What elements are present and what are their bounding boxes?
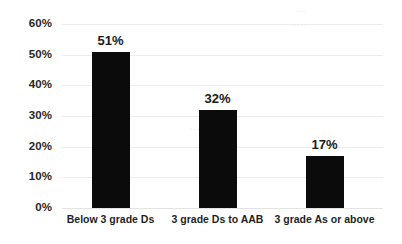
plot-area (62, 24, 383, 208)
gridline (62, 24, 383, 25)
y-axis-tick-label: 20% (6, 141, 52, 153)
watermark-artifact: ... (296, 4, 307, 14)
gridline (62, 208, 383, 209)
y-axis-tick-label: 0% (6, 202, 52, 214)
bar (92, 52, 130, 208)
bar (199, 110, 237, 208)
bar-chart: ... ..... .... ... 0%10%20%30%40%50%60% … (0, 0, 402, 244)
bar-value-label: 51% (71, 34, 151, 47)
y-axis-tick-label: 50% (6, 49, 52, 61)
y-axis-tick-label: 10% (6, 171, 52, 183)
bar (306, 156, 344, 208)
x-axis-category-label: 3 grade As or above (265, 214, 385, 226)
y-axis-tick-label: 40% (6, 79, 52, 91)
y-axis-tick-label: 30% (6, 110, 52, 122)
x-axis-category-label: Below 3 grade Ds (51, 214, 171, 226)
x-axis-category-label: 3 grade Ds to AAB (158, 214, 278, 226)
y-axis-tick-label: 60% (6, 18, 52, 30)
bar-value-label: 17% (285, 138, 365, 151)
bar-value-label: 32% (178, 92, 258, 105)
